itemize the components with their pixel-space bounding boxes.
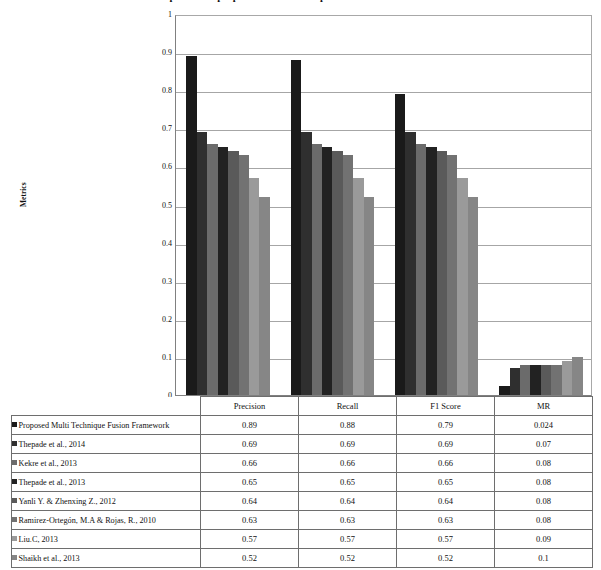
legend-label: Thepade et al., 2013 bbox=[19, 478, 86, 487]
table-row: Yanli Y. & Zhenxing Z., 20120.640.640.64… bbox=[12, 492, 593, 511]
bar bbox=[562, 361, 572, 395]
bar bbox=[510, 368, 520, 395]
legend-entry: Kekre et al., 2013 bbox=[12, 454, 201, 473]
bar-group bbox=[499, 16, 582, 395]
bar bbox=[228, 151, 238, 395]
bar bbox=[405, 132, 415, 395]
table-value-cell: 0.57 bbox=[201, 530, 299, 549]
table-value-cell: 0.07 bbox=[495, 435, 593, 454]
bar bbox=[447, 155, 457, 395]
table-value-cell: 0.69 bbox=[201, 435, 299, 454]
bar bbox=[259, 197, 269, 395]
legend-label: Thepade et al., 2014 bbox=[19, 440, 86, 449]
table-value-cell: 0.88 bbox=[299, 416, 397, 435]
bar bbox=[332, 151, 342, 395]
table-value-cell: 0.65 bbox=[299, 473, 397, 492]
table-value-cell: 0.64 bbox=[299, 492, 397, 511]
legend-label: Proposed Multi Technique Fusion Framewor… bbox=[19, 421, 170, 430]
y-axis-tick-label: 0.6 bbox=[140, 163, 172, 171]
bar bbox=[218, 147, 228, 395]
table-value-cell: 0.52 bbox=[201, 549, 299, 568]
bar bbox=[416, 144, 426, 395]
legend-swatch-icon bbox=[12, 441, 17, 446]
y-axis-tick-label: 0.1 bbox=[140, 354, 172, 362]
bar bbox=[291, 60, 301, 395]
table-value-cell: 0.66 bbox=[201, 454, 299, 473]
table-category-header: F1 Score bbox=[397, 397, 495, 416]
legend-entry: Shaikh et al., 2013 bbox=[12, 549, 201, 568]
bar bbox=[364, 197, 374, 395]
bar bbox=[541, 365, 551, 395]
y-axis-tick-labels: 10.90.80.70.60.50.40.30.20.10 bbox=[140, 15, 172, 396]
bar bbox=[186, 56, 196, 395]
legend-entry: Thepade et al., 2014 bbox=[12, 435, 201, 454]
table-value-cell: 0.57 bbox=[299, 530, 397, 549]
legend-label: Kekre et al., 2013 bbox=[19, 459, 77, 468]
table-value-cell: 0.69 bbox=[299, 435, 397, 454]
table-value-cell: 0.63 bbox=[397, 511, 495, 530]
y-axis-tick-label: 0.8 bbox=[140, 87, 172, 95]
chart-title: Comparison of proposed method with previ… bbox=[0, 0, 601, 3]
legend-label: Liu.C, 2013 bbox=[19, 535, 58, 544]
table-row: Ramirez-Ortegón, M.A & Rojas, R., 20100.… bbox=[12, 511, 593, 530]
bar-group-bars bbox=[499, 16, 582, 395]
table-value-cell: 0.08 bbox=[495, 473, 593, 492]
table-value-cell: 0.66 bbox=[397, 454, 495, 473]
table-row: Kekre et al., 20130.660.660.660.08 bbox=[12, 454, 593, 473]
table-value-cell: 0.64 bbox=[397, 492, 495, 511]
table-row: Liu.C, 20130.570.570.570.09 bbox=[12, 530, 593, 549]
table-category-header: Recall bbox=[299, 397, 397, 416]
bar bbox=[239, 155, 249, 395]
bar-group bbox=[291, 16, 374, 395]
y-axis-tick-label: 0.2 bbox=[140, 316, 172, 324]
table-value-cell: 0.65 bbox=[397, 473, 495, 492]
legend-label: Ramirez-Ortegón, M.A & Rojas, R., 2010 bbox=[19, 516, 156, 525]
bar bbox=[468, 197, 478, 395]
bar-group-bars bbox=[186, 16, 269, 395]
y-axis-tick-label: 0.7 bbox=[140, 125, 172, 133]
plot-area bbox=[175, 15, 592, 396]
table-value-cell: 0.57 bbox=[397, 530, 495, 549]
y-axis-title: Metrics bbox=[19, 147, 33, 207]
bar bbox=[520, 365, 530, 395]
table-value-cell: 0.1 bbox=[495, 549, 593, 568]
table-value-cell: 0.64 bbox=[201, 492, 299, 511]
bar bbox=[312, 144, 322, 395]
legend-label: Yanli Y. & Zhenxing Z., 2012 bbox=[19, 497, 116, 506]
bar-group-bars bbox=[291, 16, 374, 395]
bar bbox=[551, 365, 561, 395]
legend-swatch-icon bbox=[12, 536, 17, 541]
y-axis-tick-label: 0.5 bbox=[140, 202, 172, 210]
legend-label: Shaikh et al., 2013 bbox=[19, 554, 80, 563]
table-value-cell: 0.52 bbox=[397, 549, 495, 568]
bar-group bbox=[395, 16, 478, 395]
legend-entry: Proposed Multi Technique Fusion Framewor… bbox=[12, 416, 201, 435]
y-axis-tick-label: 0.3 bbox=[140, 278, 172, 286]
legend-swatch-icon bbox=[12, 460, 17, 465]
chart-data-table: PrecisionRecallF1 ScoreMR Proposed Multi… bbox=[11, 396, 593, 568]
bar bbox=[197, 132, 207, 395]
bar-group bbox=[186, 16, 269, 395]
legend-swatch-icon bbox=[12, 555, 17, 560]
y-axis-tick-label: 1 bbox=[140, 11, 172, 19]
table-value-cell: 0.63 bbox=[201, 511, 299, 530]
table-corner-cell bbox=[12, 397, 201, 416]
table-value-cell: 0.65 bbox=[201, 473, 299, 492]
table-value-cell: 0.63 bbox=[299, 511, 397, 530]
bar bbox=[572, 357, 582, 395]
legend-swatch-icon bbox=[12, 517, 17, 522]
legend-entry: Liu.C, 2013 bbox=[12, 530, 201, 549]
table-category-header: Precision bbox=[201, 397, 299, 416]
table-value-cell: 0.52 bbox=[299, 549, 397, 568]
legend-swatch-icon bbox=[12, 422, 17, 427]
table-row: Shaikh et al., 20130.520.520.520.1 bbox=[12, 549, 593, 568]
bar-group-bars bbox=[395, 16, 478, 395]
table-row: Proposed Multi Technique Fusion Framewor… bbox=[12, 416, 593, 435]
bar bbox=[395, 94, 405, 395]
legend-entry: Yanli Y. & Zhenxing Z., 2012 bbox=[12, 492, 201, 511]
bar bbox=[426, 147, 436, 395]
bar bbox=[499, 386, 509, 395]
table-header-row: PrecisionRecallF1 ScoreMR bbox=[12, 397, 593, 416]
table-value-cell: 0.08 bbox=[495, 511, 593, 530]
table-row: Thepade et al., 20130.650.650.650.08 bbox=[12, 473, 593, 492]
